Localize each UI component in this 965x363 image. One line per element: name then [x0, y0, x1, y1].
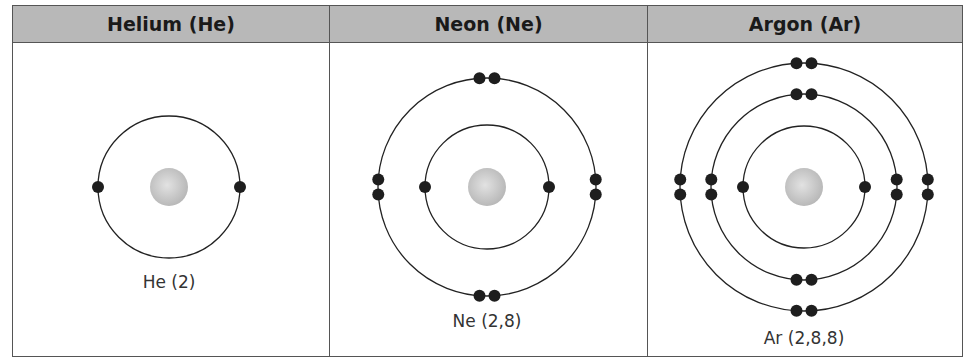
helium-diagram: He (2) — [13, 43, 329, 356]
electron — [674, 174, 686, 186]
electron — [590, 174, 602, 186]
electron — [791, 274, 803, 286]
electron — [419, 181, 431, 193]
electron — [859, 181, 871, 193]
argon-header: Argon (Ar) — [648, 6, 962, 43]
electron — [791, 88, 803, 100]
nucleus — [150, 168, 188, 206]
electron — [891, 189, 903, 201]
nucleus — [785, 168, 823, 206]
electron — [806, 88, 818, 100]
electron — [234, 181, 246, 193]
neon-diagram: Ne (2,8) — [330, 43, 647, 356]
argon-column: Argon (Ar) Ar (2,8,8) — [647, 6, 962, 356]
argon-atom-diagram — [648, 43, 964, 358]
helium-column: Helium (He) He (2) — [13, 6, 329, 356]
electron — [474, 72, 486, 84]
helium-atom-diagram — [13, 43, 329, 358]
electron — [791, 305, 803, 317]
neon-config-label: Ne (2,8) — [453, 311, 522, 331]
electron — [543, 181, 555, 193]
electron — [674, 189, 686, 201]
electron — [705, 174, 717, 186]
electron — [489, 290, 501, 302]
electron — [806, 305, 818, 317]
electron — [489, 72, 501, 84]
electron — [590, 189, 602, 201]
electron — [922, 174, 934, 186]
helium-header: Helium (He) — [13, 6, 329, 43]
electron — [474, 290, 486, 302]
electron — [806, 274, 818, 286]
neon-column: Neon (Ne) Ne (2,8) — [329, 6, 647, 356]
electron — [92, 181, 104, 193]
electron — [372, 174, 384, 186]
neon-header: Neon (Ne) — [330, 6, 647, 43]
nucleus — [468, 168, 506, 206]
electron — [891, 174, 903, 186]
electron — [806, 57, 818, 69]
helium-config-label: He (2) — [143, 272, 196, 292]
electron — [922, 189, 934, 201]
electron — [705, 189, 717, 201]
argon-config-label: Ar (2,8,8) — [764, 328, 845, 348]
electron — [372, 189, 384, 201]
electron — [791, 57, 803, 69]
electron — [737, 181, 749, 193]
argon-diagram: Ar (2,8,8) — [648, 43, 962, 356]
atom-table: Helium (He) He (2) Neon (Ne) Ne (2,8) Ar… — [12, 5, 963, 357]
